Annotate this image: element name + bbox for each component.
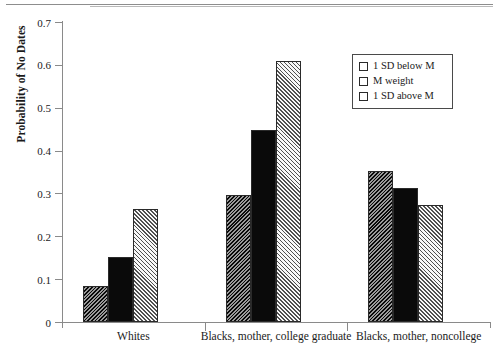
y-axis-tick-label: 0.5 — [37, 103, 51, 114]
x-axis-group-label: Blacks, mother, noncollege — [356, 331, 481, 343]
bar — [276, 61, 301, 322]
y-axis-tick: 0.5 — [55, 108, 62, 109]
x-axis-line — [62, 322, 491, 323]
legend-swatch-hatch-below-icon — [359, 62, 368, 71]
y-axis-tick: 0.7 — [55, 22, 62, 23]
x-axis-group-label: Blacks, mother, college graduate — [201, 331, 352, 343]
y-axis-tick: 0.2 — [55, 236, 62, 237]
bar — [393, 188, 418, 322]
x-axis-tick — [62, 323, 63, 328]
bar — [83, 286, 108, 322]
legend-label: M weight — [373, 76, 414, 87]
bar — [251, 130, 276, 322]
y-axis-tick-label: 0.1 — [37, 274, 51, 285]
y-axis-tick-label: 0.6 — [37, 60, 51, 71]
y-axis-tick: 0 — [55, 322, 62, 323]
x-axis-tick — [490, 323, 491, 328]
chart-legend: 1 SD below M M weight 1 SD above M — [352, 54, 453, 109]
page-rule-top-secondary — [90, 6, 493, 7]
legend-item-1-sd-below-m: 1 SD below M — [359, 60, 446, 73]
y-axis-tick: 0.3 — [55, 193, 62, 194]
y-axis-tick-label: 0.4 — [37, 146, 51, 157]
legend-item-1-sd-above-m: 1 SD above M — [359, 90, 446, 103]
y-axis-tick: 0.6 — [55, 65, 62, 66]
legend-label: 1 SD below M — [373, 61, 435, 72]
y-axis-tick-label: 0.7 — [37, 17, 51, 28]
y-axis-tick-label: 0.2 — [37, 231, 51, 242]
legend-swatch-hatch-above-icon — [359, 92, 368, 101]
y-axis-title: Probability of No Dates — [15, 25, 27, 142]
bar — [133, 209, 158, 322]
y-axis-tick: 0.1 — [55, 279, 62, 280]
legend-label: 1 SD above M — [373, 91, 434, 102]
legend-item-m-weight: M weight — [359, 75, 446, 88]
bar — [108, 257, 133, 322]
bar — [226, 195, 251, 322]
bar-chart-figure: Probability of No Dates 00.10.20.30.40.5… — [0, 0, 499, 351]
y-axis-tick-label: 0 — [46, 317, 52, 328]
legend-swatch-solid-icon — [359, 77, 368, 86]
bar — [418, 205, 443, 322]
y-axis-tick: 0.4 — [55, 151, 62, 152]
page-rule-top — [6, 4, 493, 5]
x-axis-group-label: Whites — [117, 331, 150, 343]
y-axis-tick-label: 0.3 — [37, 188, 51, 199]
bar — [368, 171, 393, 322]
